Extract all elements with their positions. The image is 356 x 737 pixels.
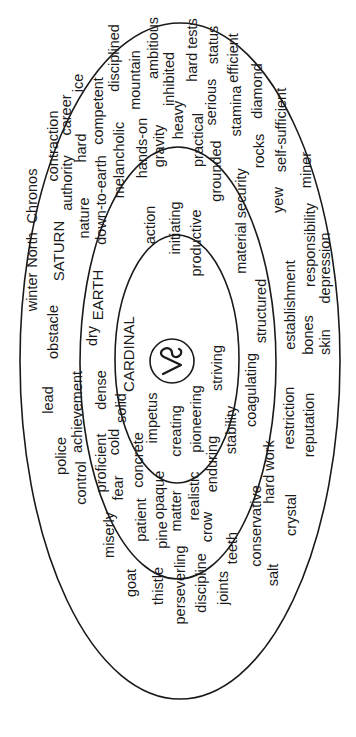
word-outer: achievement [69, 371, 85, 453]
word-outer: winter [24, 272, 40, 312]
word-inner: productive [188, 210, 204, 277]
word-middle: material security [233, 167, 249, 273]
word-outer: patient [133, 498, 149, 542]
word-outer: responsibility [302, 202, 318, 287]
word-outer: hard [73, 133, 89, 162]
word-outer: teeth [224, 532, 240, 564]
word-outer: establishment [282, 260, 298, 349]
word-outer: career [58, 94, 74, 135]
word-outer: skin [317, 329, 333, 355]
word-outer: ice [70, 74, 86, 93]
word-middle: hands-on [134, 118, 150, 178]
word-inner: striving [209, 345, 225, 391]
word-outer: perseverling [172, 546, 188, 625]
word-outer: efficient [225, 33, 241, 83]
word-outer: thistle [150, 567, 166, 605]
word-outer: mountain [127, 50, 143, 110]
ring-label-middle: EARTH [89, 270, 106, 321]
word-outer: fear [110, 475, 126, 500]
inner-ring-words: actionCARDINALimpetusinitiatingcreatingp… [120, 201, 225, 456]
word-outer: bones [300, 315, 316, 355]
word-middle: stability [223, 405, 239, 454]
word-middle: grounded [208, 140, 224, 201]
word-middle: matter [168, 490, 184, 531]
word-outer: police [53, 437, 69, 475]
word-outer: ambitious [145, 17, 161, 79]
word-outer: diamond [249, 63, 265, 119]
word-middle: down-to-earth [93, 155, 109, 244]
word-outer: reputation [301, 393, 317, 458]
word-middle: heavy [170, 100, 186, 139]
word-outer: Chronos [24, 169, 40, 224]
word-middle: opaque [151, 471, 167, 519]
word-outer: rocks [251, 134, 267, 169]
word-outer: conservative [248, 485, 264, 566]
word-outer: crystal [283, 494, 299, 536]
word-outer: control [73, 461, 89, 505]
word-middle: solid [113, 393, 129, 423]
word-outer: depression [317, 233, 333, 304]
ring-label-inner: CARDINAL [120, 316, 137, 392]
word-outer: miserly [101, 511, 117, 558]
word-middle: gravity [151, 124, 167, 167]
word-middle: dry [84, 325, 100, 346]
word-outer: status [205, 26, 221, 65]
word-outer: lead [40, 386, 56, 413]
word-outer: obstacle [45, 305, 61, 359]
word-outer: joints [215, 571, 231, 606]
word-outer: disciplined [106, 24, 122, 92]
word-inner: creating [168, 405, 184, 457]
word-middle: realistic [186, 471, 202, 520]
word-outer: self-sufficient [273, 88, 289, 172]
word-middle: melancholic [111, 122, 127, 199]
word-outer: restriction [281, 387, 297, 450]
ring-label-outer: SATURN [50, 221, 67, 282]
word-inner: impetus [144, 393, 160, 444]
word-middle: structured [253, 279, 269, 343]
word-outer: miner [298, 152, 314, 188]
word-middle: coagulating [243, 353, 259, 427]
word-inner: action [142, 206, 158, 245]
word-outer: goat [123, 569, 139, 597]
word-outer: salt [265, 564, 281, 587]
capricorn-symbol [150, 339, 194, 383]
word-outer: competent [90, 77, 106, 145]
capricorn-association-diagram: winterNorthChronosleadobstacleSATURNcont… [0, 0, 356, 737]
word-outer: North [24, 232, 40, 267]
word-middle: dense [93, 370, 109, 410]
word-middle: nature [76, 197, 92, 238]
word-outer: inhibited [161, 52, 177, 106]
word-outer: stamina [228, 85, 244, 137]
capricorn-glyph-icon [161, 348, 181, 374]
word-middle: cold [106, 429, 122, 456]
word-middle: practical [190, 113, 206, 167]
word-outer: yew [270, 187, 286, 213]
word-inner: pioneering [188, 385, 204, 453]
word-middle: enduring [204, 436, 220, 492]
word-outer: hard tests [184, 18, 200, 82]
word-outer: discipline [193, 553, 209, 613]
word-inner: initiating [167, 201, 183, 254]
